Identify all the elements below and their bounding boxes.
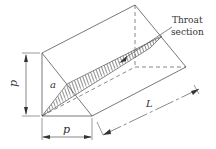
throat-label: Throat (172, 16, 203, 25)
length-label: L (146, 99, 153, 109)
throat-leader (122, 27, 172, 60)
top-edge (42, 5, 135, 53)
length-dim-line (103, 89, 199, 135)
base-label: p (63, 124, 70, 135)
height-label: p (8, 80, 19, 87)
angle-label: a (50, 80, 56, 90)
section-label: section (171, 28, 204, 37)
